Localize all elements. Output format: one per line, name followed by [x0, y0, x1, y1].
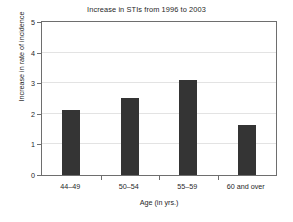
- y-tick-mark: [37, 114, 41, 115]
- y-tick-label: 3: [31, 79, 35, 88]
- bar: [179, 80, 197, 175]
- y-tick-label: 0: [31, 171, 35, 180]
- x-tick-label: 44–49: [60, 182, 80, 191]
- x-tick-label: 55–59: [177, 182, 197, 191]
- x-tick-label: 60 and over: [227, 182, 265, 191]
- y-tick-label: 4: [31, 48, 35, 57]
- bar: [62, 110, 80, 175]
- y-tick-mark: [37, 22, 41, 23]
- plot-area: [41, 21, 277, 176]
- y-tick-mark: [37, 144, 41, 145]
- bar: [238, 125, 256, 175]
- y-tick-label: 2: [31, 109, 35, 118]
- bar: [121, 98, 139, 175]
- x-axis: [41, 176, 277, 181]
- chart-title: Increase in STIs from 1996 to 2003: [0, 5, 293, 14]
- y-tick-mark: [37, 53, 41, 54]
- bar-chart: Increase in STIs from 1996 to 2003 01234…: [0, 0, 293, 222]
- gridline: [42, 52, 276, 53]
- gridline: [42, 82, 276, 83]
- y-axis-title: Increase in rate of incidence: [17, 0, 26, 124]
- y-tick-mark: [37, 83, 41, 84]
- x-axis-title: Age (in yrs.): [41, 198, 277, 207]
- x-tick-label: 50–54: [119, 182, 139, 191]
- y-tick-label: 5: [31, 18, 35, 27]
- x-tick-mark: [159, 176, 160, 180]
- x-tick-mark: [101, 176, 102, 180]
- y-tick-label: 1: [31, 140, 35, 149]
- x-tick-mark: [218, 176, 219, 180]
